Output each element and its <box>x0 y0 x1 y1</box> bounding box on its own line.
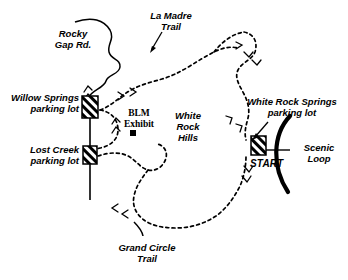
east-connector-trail <box>237 32 256 140</box>
label-willow-springs-parking: Willow Springs parking lot <box>0 92 79 114</box>
grand-circle-trail-stub <box>134 222 143 236</box>
grand-circle-trail-south <box>133 156 246 228</box>
blm-exhibit-marker[interactable] <box>130 130 136 136</box>
label-rocky-gap-road: Rocky Gap Rd. <box>42 28 104 50</box>
la-madre-trail <box>100 47 238 110</box>
label-white-rock-hills: White Rock Hills <box>168 110 208 143</box>
label-blm-exhibit: BLM Exhibit <box>116 108 162 129</box>
willow-springs-parking-symbol[interactable] <box>82 96 98 118</box>
label-white-rock-springs-parking: White Rock Springs parking lot <box>238 96 346 118</box>
label-lost-creek-parking: Lost Creek parking lot <box>0 144 79 166</box>
label-scenic-loop: Scenic Loop <box>296 142 342 164</box>
label-la-madre-trail: La Madre Trail <box>140 10 202 32</box>
la-madre-trail-east-branch <box>214 32 244 52</box>
label-start: START <box>250 158 283 169</box>
label-grand-circle-trail: Grand Circle Trail <box>104 242 190 264</box>
lost-creek-spur-trail <box>98 144 166 170</box>
trail-map: Rocky Gap Rd. La Madre Trail Willow Spri… <box>0 0 348 280</box>
lost-creek-parking-symbol[interactable] <box>83 146 97 164</box>
scenic-loop-arc <box>276 116 290 192</box>
